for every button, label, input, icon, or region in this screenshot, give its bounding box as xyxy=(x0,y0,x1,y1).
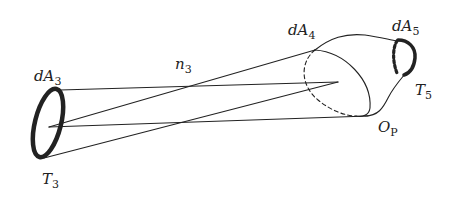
enclosure-bottom-curve xyxy=(365,74,405,116)
label-dA4: dA4 xyxy=(288,21,315,42)
surface-dA4-front xyxy=(315,50,370,116)
label-n3: n3 xyxy=(175,55,192,76)
label-T5: T5 xyxy=(415,81,432,102)
ray-bottom xyxy=(44,82,338,158)
label-dA3: dA3 xyxy=(34,67,61,88)
label-T3: T3 xyxy=(42,170,59,191)
surface-dA5-front xyxy=(398,40,415,75)
label-OP: OP xyxy=(378,118,398,139)
surface-dA5-back xyxy=(394,41,397,73)
enclosure-top-curve xyxy=(315,35,397,50)
label-dA5: dA5 xyxy=(392,17,419,38)
ray-lower xyxy=(49,116,368,127)
radiation-view-factor-diagram: dA3 T3 n3 dA4 dA5 T5 OP xyxy=(0,0,457,198)
diagram-svg: dA3 T3 n3 dA4 dA5 T5 OP xyxy=(0,0,457,198)
